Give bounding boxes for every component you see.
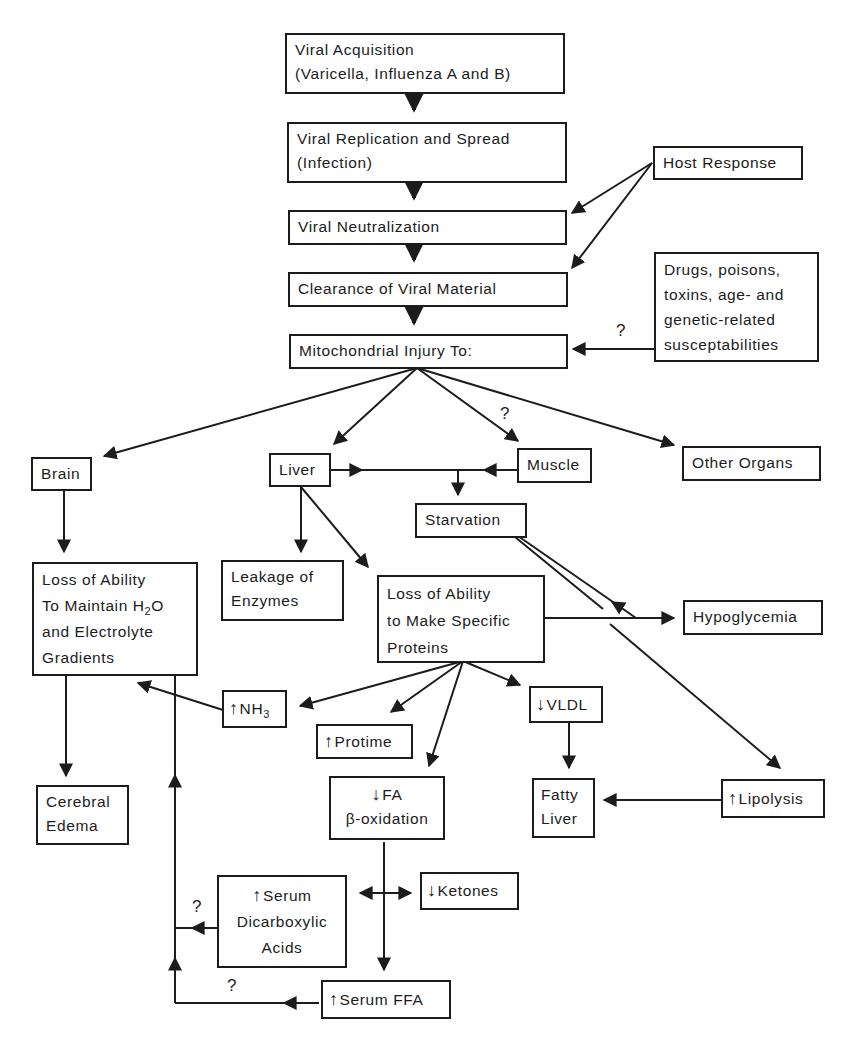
question-mark: ? (227, 976, 236, 996)
diagram-canvas: Viral Acquisition (Varicella, Influenza … (0, 0, 848, 1038)
node-text: genetic-related (664, 307, 809, 332)
question-mark: ? (500, 404, 509, 424)
node-text: Cerebral (46, 790, 119, 814)
node-text: Proteins (387, 634, 535, 661)
node-text-part: Ketones (438, 882, 499, 899)
node-text: Host Response (663, 151, 793, 175)
node-lipolysis: ↑Lipolysis (721, 779, 825, 818)
node-text: Viral Replication and Spread (297, 127, 557, 151)
node-liver: Liver (269, 453, 331, 487)
down-arrow-icon: ↓ (372, 782, 382, 806)
node-text-part: Serum FFA (340, 991, 424, 1008)
question-mark: ? (192, 897, 201, 917)
up-arrow-icon: ↑ (324, 729, 334, 753)
node-text: (Infection) (297, 151, 557, 175)
node-fa-oxidation: ↓FA β-oxidation (329, 776, 445, 840)
node-text: and Electrolyte (42, 619, 188, 645)
node-text: Muscle (527, 453, 582, 477)
node-text-part: To Maintain H (42, 597, 145, 614)
up-arrow-icon: ↑ (252, 882, 262, 908)
host-to-clearance (572, 163, 652, 268)
liver-to-proteins (301, 487, 368, 567)
node-text: Edema (46, 814, 119, 838)
node-viral-neutralization: Viral Neutralization (288, 210, 567, 245)
node-text-part: VLDL (547, 696, 588, 713)
node-text: Loss of Ability (42, 567, 188, 593)
up-arrow-icon: ↑ (329, 987, 339, 1011)
node-leakage-enzymes: Leakage of Enzymes (221, 560, 344, 621)
node-text: Clearance of Viral Material (298, 277, 558, 301)
node-text: Dicarboxylic (223, 909, 341, 935)
node-text: Starvation (425, 508, 517, 532)
node-clearance: Clearance of Viral Material (288, 272, 568, 307)
node-text: ↑NH3 (229, 696, 280, 721)
node-text: Liver (541, 807, 586, 831)
node-text-part: O (151, 597, 164, 614)
node-text: To Maintain H2O (42, 593, 188, 619)
node-text: Acids (223, 935, 341, 961)
node-text: ↑Serum (223, 882, 341, 909)
node-text-part: Lipolysis (739, 790, 804, 807)
node-text: Drugs, poisons, (664, 257, 809, 282)
node-hypoglycemia: Hypoglycemia (683, 600, 823, 635)
down-arrow-icon: ↓ (536, 692, 546, 716)
node-text: Loss of Ability (387, 580, 535, 607)
node-starvation: Starvation (415, 503, 527, 538)
node-drugs-poisons: Drugs, poisons, toxins, age- and genetic… (654, 252, 819, 362)
mito-to-other (417, 368, 674, 445)
node-fatty-liver: Fatty Liver (532, 778, 595, 838)
host-to-neutralization (572, 163, 652, 213)
node-text-part: FA (382, 786, 402, 803)
node-text: Enzymes (231, 589, 334, 613)
node-text: ↑Serum FFA (329, 987, 443, 1012)
node-viral-replication: Viral Replication and Spread (Infection) (287, 122, 567, 183)
subscript: 3 (263, 708, 270, 720)
node-text: β-oxidation (335, 807, 439, 831)
proteins-to-nh3 (300, 661, 463, 706)
node-loss-proteins: Loss of Ability to Make Specific Protein… (377, 575, 545, 663)
node-brain: Brain (31, 457, 92, 491)
node-text: Gradients (42, 645, 188, 671)
node-viral-acquisition: Viral Acquisition (Varicella, Influenza … (285, 33, 565, 94)
node-text: Viral Neutralization (298, 215, 557, 239)
node-serum-ffa: ↑Serum FFA (321, 980, 451, 1019)
node-text: ↓VLDL (536, 692, 596, 717)
question-mark: ? (616, 321, 625, 341)
node-muscle: Muscle (517, 448, 592, 483)
node-text-part: Protime (335, 733, 393, 750)
node-text: (Varicella, Influenza A and B) (295, 62, 555, 86)
up-arrow-icon: ↑ (728, 786, 738, 810)
node-mitochondrial-injury: Mitochondrial Injury To: (289, 334, 568, 369)
node-text: Fatty (541, 783, 586, 807)
node-text: ↑Lipolysis (728, 786, 818, 811)
node-loss-h2o: Loss of Ability To Maintain H2O and Elec… (32, 562, 198, 676)
node-other-organs: Other Organs (682, 446, 821, 481)
node-text: ↑Protime (324, 729, 405, 754)
starvation-to-lipolysis-b (610, 624, 780, 768)
node-text: toxins, age- and (664, 282, 809, 307)
node-cerebral-edema: Cerebral Edema (36, 785, 129, 845)
nh3-to-loss (138, 683, 223, 710)
node-text: Other Organs (692, 451, 811, 475)
node-text: ↓FA (335, 782, 439, 807)
node-serum-dicarboxylic: ↑Serum Dicarboxylic Acids (217, 875, 347, 968)
down-arrow-icon: ↓ (427, 878, 437, 902)
proteins-to-vldl (463, 661, 520, 685)
node-text-part: NH (240, 700, 264, 717)
proteins-to-protime (391, 661, 463, 712)
node-text: Leakage of (231, 565, 334, 589)
node-protime: ↑Protime (316, 724, 413, 759)
node-text-part: Serum (263, 887, 312, 904)
node-text: Brain (41, 462, 82, 486)
node-text: Viral Acquisition (295, 38, 555, 62)
node-text: to Make Specific (387, 607, 535, 634)
node-text: susceptabilities (664, 332, 809, 357)
node-ketones: ↓Ketones (420, 872, 519, 910)
node-text: Liver (279, 458, 321, 482)
node-nh3: ↑NH3 (222, 690, 287, 728)
proteins-to-fa (429, 661, 463, 766)
node-vldl: ↓VLDL (529, 686, 603, 723)
node-text: Mitochondrial Injury To: (299, 339, 558, 363)
node-text: ↓Ketones (427, 878, 512, 903)
node-text: Hypoglycemia (693, 605, 813, 629)
